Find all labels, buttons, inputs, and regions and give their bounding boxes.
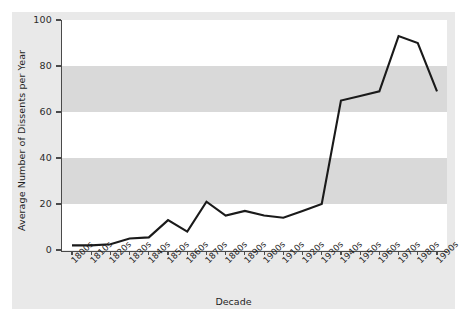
- line-series: [62, 20, 447, 250]
- y-tick-mark: [56, 19, 61, 20]
- y-tick-label: 80: [12, 60, 52, 71]
- y-tick-mark: [56, 203, 61, 204]
- y-axis-line: [61, 20, 62, 251]
- x-axis-title: Decade: [0, 296, 467, 307]
- y-tick-mark: [56, 249, 61, 250]
- y-tick-mark: [56, 65, 61, 66]
- chart-figure: Average Number of Dissents per Year Deca…: [0, 0, 467, 321]
- y-tick-label: 0: [12, 244, 52, 255]
- y-tick-label: 20: [12, 198, 52, 209]
- plot-area: [62, 20, 447, 250]
- y-tick-label: 100: [12, 14, 52, 25]
- y-tick-mark: [56, 157, 61, 158]
- y-tick-label: 40: [12, 152, 52, 163]
- y-tick-label: 60: [12, 106, 52, 117]
- y-tick-mark: [56, 111, 61, 112]
